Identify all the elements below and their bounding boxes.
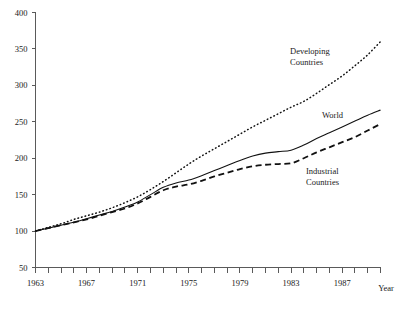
x-tick-label: 1975 [180, 278, 197, 288]
developing-countries-label: Countries [290, 57, 323, 67]
x-tick-label: 1963 [27, 278, 44, 288]
chart-background [0, 0, 411, 309]
industrial-countries-label: Countries [306, 177, 339, 187]
world-label: World [322, 110, 344, 120]
y-tick-label: 300 [15, 80, 28, 90]
y-tick-label: 400 [15, 8, 28, 18]
x-tick-label: 1967 [78, 278, 95, 288]
line-chart: 50100150200250300350400 1963196719711975… [0, 0, 411, 309]
y-tick-label: 150 [15, 190, 28, 200]
x-axis-title: Year [378, 283, 394, 293]
developing-countries-label: Developing [290, 46, 330, 56]
x-tick-label: 1971 [129, 278, 146, 288]
x-tick-label: 1983 [283, 278, 300, 288]
y-tick-label: 200 [15, 153, 28, 163]
x-tick-label: 1987 [334, 278, 351, 288]
y-tick-label: 100 [15, 226, 28, 236]
industrial-countries-label: Industrial [306, 166, 339, 176]
y-tick-label: 350 [15, 44, 28, 54]
chart-container: 50100150200250300350400 1963196719711975… [0, 0, 411, 309]
y-tick-label: 50 [19, 263, 28, 273]
y-tick-label: 250 [15, 117, 28, 127]
x-tick-label: 1979 [231, 278, 248, 288]
